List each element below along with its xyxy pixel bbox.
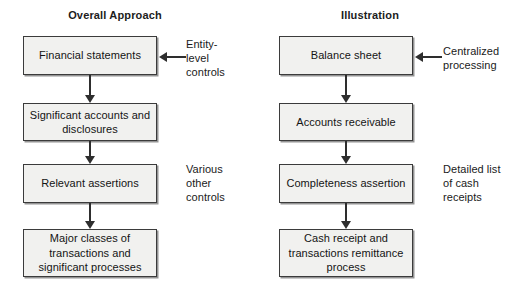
node-label: Significant accounts and disclosures [28, 108, 152, 137]
arrow-head-left-icon [159, 52, 167, 62]
arrow-head-down-icon [341, 156, 351, 164]
node-label: Accounts receivable [284, 115, 408, 130]
node-label: Financial statements [28, 48, 152, 63]
node-accounts-receivable: Accounts receivable [279, 103, 413, 141]
arrow-entity-level-controls-to-financial-statements [159, 51, 186, 63]
arrow-stem [89, 203, 91, 221]
arrow-head-down-icon [85, 156, 95, 164]
arrow-head-down-icon [85, 95, 95, 103]
arrow-stem [166, 56, 186, 58]
arrow-centralized-processing-to-balance-sheet [415, 51, 442, 63]
arrow-stem [422, 56, 442, 58]
arrow-accounts-receivable-to-completeness-assertion [339, 141, 353, 164]
arrow-completeness-assertion-to-cash-receipt [339, 203, 353, 229]
node-label: Major classes of transactions and signif… [28, 231, 152, 275]
node-completeness-assertion: Completeness assertion [279, 164, 413, 203]
annotation-detailed-list-of-cash-receipts: Detailed list of cash receipts [443, 162, 501, 204]
arrow-head-down-icon [85, 221, 95, 229]
node-label: Relevant assertions [28, 176, 152, 191]
flowchart-diagram: Overall Approach Illustration Financial … [0, 0, 517, 292]
node-cash-receipt-and-transactions-remittance-process: Cash receipt and transactions remittance… [279, 229, 413, 277]
node-label: Cash receipt and transactions remittance… [284, 231, 408, 275]
node-significant-accounts-and-disclosures: Significant accounts and disclosures [23, 103, 157, 141]
node-relevant-assertions: Relevant assertions [23, 164, 157, 203]
annotation-entity-level-controls: Entity- level controls [186, 37, 225, 79]
arrow-stem [89, 75, 91, 95]
arrow-stem [345, 75, 347, 95]
arrow-stem [89, 141, 91, 156]
node-financial-statements: Financial statements [23, 36, 157, 75]
column-header-overall-approach: Overall Approach [68, 9, 162, 21]
arrow-head-down-icon [341, 95, 351, 103]
node-label: Balance sheet [284, 48, 408, 63]
arrow-head-down-icon [341, 221, 351, 229]
annotation-centralized-processing: Centralized processing [443, 44, 499, 72]
column-header-illustration: Illustration [341, 9, 399, 21]
arrow-relevant-assertions-to-major-classes [83, 203, 97, 229]
node-major-classes-of-transactions: Major classes of transactions and signif… [23, 229, 157, 277]
arrow-significant-accounts-to-relevant-assertions [83, 141, 97, 164]
node-balance-sheet: Balance sheet [279, 36, 413, 75]
arrow-head-left-icon [415, 52, 423, 62]
node-label: Completeness assertion [284, 176, 408, 191]
arrow-financial-statements-to-significant-accounts [83, 75, 97, 103]
arrow-stem [345, 141, 347, 156]
arrow-balance-sheet-to-accounts-receivable [339, 75, 353, 103]
annotation-various-other-controls: Various other controls [186, 162, 225, 204]
arrow-stem [345, 203, 347, 221]
